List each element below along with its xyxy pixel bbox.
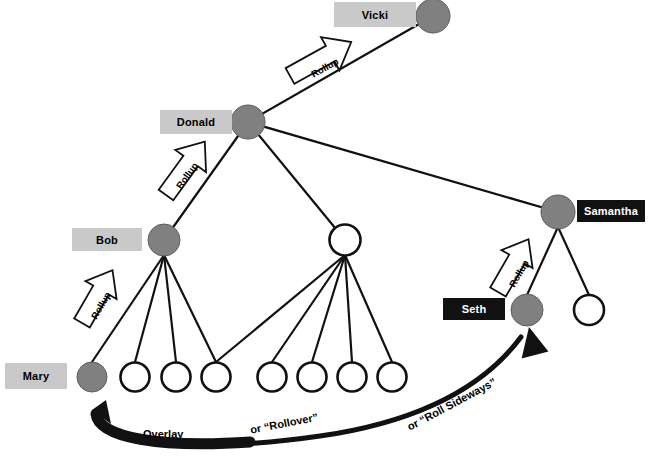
label-donald[interactable]: Donald (160, 110, 232, 134)
node-bob-child-3[interactable] (162, 363, 191, 392)
edge-bob-b4 (164, 255, 216, 362)
edge-mid-b4 (216, 255, 345, 362)
node-mary[interactable] (77, 362, 107, 392)
node-samantha[interactable] (541, 195, 575, 229)
overlay-arrow-head (512, 327, 554, 369)
label-vicki[interactable]: Vicki (334, 2, 416, 27)
label-samantha[interactable]: Samantha (577, 200, 645, 222)
rollup-arrow-donald-vicki (281, 25, 361, 92)
node-mid-child-3[interactable] (338, 363, 367, 392)
node-bob-child-4[interactable] (202, 363, 231, 392)
edge-donald-mid (248, 122, 345, 240)
edge-mid-m1 (272, 255, 345, 362)
node-mid-child-4[interactable] (378, 363, 407, 392)
node-donald[interactable] (231, 105, 265, 139)
label-bob[interactable]: Bob (72, 228, 142, 251)
label-mary[interactable]: Mary (5, 363, 67, 389)
node-bob-child-2[interactable] (121, 363, 150, 392)
node-mid-child-2[interactable] (298, 363, 327, 392)
edge-samantha-sam2 (558, 227, 589, 295)
node-vicki[interactable] (416, 0, 450, 33)
rollup-arrow-seth-samantha (482, 230, 544, 301)
edge-bob-b3 (164, 255, 176, 362)
edge-mid-m2 (312, 255, 345, 362)
edge-donald-samantha (248, 122, 558, 212)
node-bob[interactable] (148, 224, 180, 256)
node-samantha-child-2[interactable] (574, 295, 604, 325)
node-mid-child-1[interactable] (258, 363, 287, 392)
overlay-label: Overlay (143, 428, 183, 440)
node-seth[interactable] (511, 294, 543, 326)
node-middle[interactable] (330, 225, 361, 256)
diagram-canvas: Vicki Donald Bob Samantha Seth Mary Roll… (0, 0, 648, 462)
edge-bob-b2 (135, 255, 164, 362)
rollup-arrow-group (66, 25, 544, 332)
label-seth[interactable]: Seth (443, 298, 505, 320)
